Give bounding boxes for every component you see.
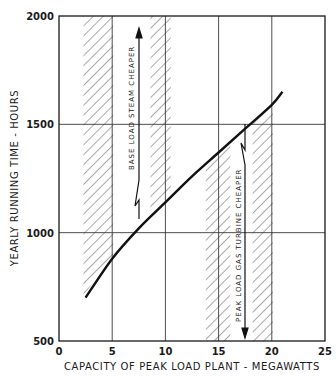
hatched-region: [83, 16, 113, 296]
y-tick-label: 2000: [26, 11, 54, 22]
peak-load-annotation: PEAK LOAD GAS TURBINE CHEAPER: [235, 169, 243, 322]
base-load-annotation: BASE LOAD STEAM CHEAPER: [128, 46, 136, 170]
y-axis-title: YEARLY RUNNING TIME - HOURS: [9, 90, 20, 268]
x-tick-label: 0: [56, 346, 63, 357]
hatched-region: [151, 16, 171, 215]
y-tick-label: 500: [33, 336, 54, 347]
base-load-arrow: [135, 28, 142, 219]
y-tick-label: 1500: [26, 119, 54, 130]
x-axis-title: CAPACITY OF PEAK LOAD PLANT - MEGAWATTS: [64, 361, 320, 372]
x-tick-label: 20: [265, 346, 279, 357]
x-tick-label: 15: [212, 346, 226, 357]
x-tick-label: 5: [109, 346, 116, 357]
y-tick-label: 1000: [26, 228, 54, 239]
hatched-region: [253, 106, 273, 341]
x-tick-label: 10: [158, 346, 172, 357]
y-tick-labels: 500100015002000: [26, 11, 54, 347]
hatched-region: [206, 144, 230, 341]
x-tick-labels: 0510152025: [56, 346, 332, 357]
x-tick-label: 25: [318, 346, 332, 357]
chart: BASE LOAD STEAM CHEAPER PEAK LOAD GAS TU…: [0, 0, 336, 377]
